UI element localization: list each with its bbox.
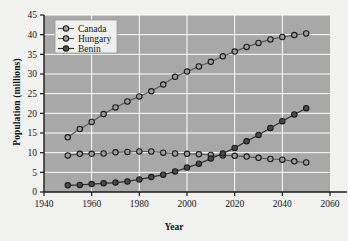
chart-canvas: 0510152025303540451940196019802000202020…: [0, 0, 348, 241]
svg-text:30: 30: [28, 69, 38, 79]
svg-text:Hungary: Hungary: [78, 34, 111, 44]
svg-text:1940: 1940: [35, 199, 54, 209]
svg-text:2040: 2040: [273, 199, 292, 209]
svg-text:5: 5: [32, 168, 37, 178]
svg-text:40: 40: [28, 30, 38, 40]
svg-text:Benin: Benin: [78, 44, 101, 54]
svg-text:2060: 2060: [321, 199, 340, 209]
svg-text:2000: 2000: [178, 199, 197, 209]
svg-text:0: 0: [32, 187, 37, 197]
population-line-chart: Population (millions) Year 0510152025303…: [0, 0, 348, 241]
chart-legend: CanadaHungaryBenin: [55, 20, 117, 54]
svg-text:1980: 1980: [130, 199, 149, 209]
svg-text:25: 25: [28, 89, 38, 99]
svg-text:35: 35: [28, 50, 38, 60]
svg-text:15: 15: [28, 128, 38, 138]
svg-text:20: 20: [28, 109, 38, 119]
svg-text:2020: 2020: [225, 199, 244, 209]
svg-text:1960: 1960: [82, 199, 101, 209]
svg-text:Canada: Canada: [78, 24, 107, 34]
svg-text:10: 10: [28, 148, 38, 158]
svg-text:45: 45: [28, 10, 38, 20]
